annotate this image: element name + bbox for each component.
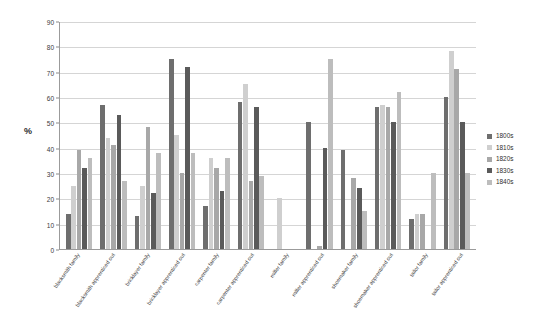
bar-group xyxy=(371,22,405,249)
bar[interactable] xyxy=(420,214,425,249)
bar[interactable] xyxy=(174,135,179,249)
bar[interactable] xyxy=(380,105,385,249)
legend-item[interactable]: 1810s xyxy=(487,145,513,151)
y-tick-label: 60 xyxy=(28,95,54,102)
x-tick-label-text: carpenter apprenticed out xyxy=(215,252,255,306)
bar[interactable] xyxy=(323,148,328,249)
y-tick-mark xyxy=(56,148,59,149)
bar[interactable] xyxy=(106,138,111,249)
bar-group xyxy=(337,22,371,249)
x-tick-label-text: miller apprenticed out xyxy=(290,252,324,298)
bar[interactable] xyxy=(386,107,391,249)
bar-group xyxy=(234,22,268,249)
x-tick-label-text: bricklayer apprenticed out xyxy=(145,252,185,306)
bar[interactable] xyxy=(254,107,259,249)
y-tick-label: 20 xyxy=(28,196,54,203)
legend-swatch-icon xyxy=(487,180,492,185)
legend-label: 1800s xyxy=(496,133,513,139)
x-tick-label-text: bricklayer family xyxy=(124,252,151,287)
legend-label: 1820s xyxy=(496,156,513,162)
x-tick-label-text: blacksmith apprenticed out xyxy=(74,252,116,308)
y-axis-title: % xyxy=(24,126,32,136)
legend-swatch-icon xyxy=(487,145,492,150)
x-tick-label-text: shoemaker apprenticed out xyxy=(352,252,394,309)
y-tick-mark xyxy=(56,98,59,99)
bar[interactable] xyxy=(117,115,122,249)
bar[interactable] xyxy=(71,186,76,249)
bar[interactable] xyxy=(397,92,402,249)
legend-item[interactable]: 1800s xyxy=(487,133,513,139)
bar-group xyxy=(165,22,199,249)
bar-group xyxy=(405,22,439,249)
y-tick-mark xyxy=(56,199,59,200)
bar[interactable] xyxy=(306,122,311,249)
y-tick-label: 40 xyxy=(28,145,54,152)
legend-item[interactable]: 1840s xyxy=(487,179,513,185)
legend-swatch-icon xyxy=(487,134,492,139)
bar[interactable] xyxy=(111,145,116,249)
y-tick-mark xyxy=(56,123,59,124)
bar-group xyxy=(302,22,336,249)
bar[interactable] xyxy=(449,51,454,249)
y-tick-mark xyxy=(56,174,59,175)
y-tick-label: 50 xyxy=(28,120,54,127)
y-tick-mark xyxy=(56,47,59,48)
x-tick-label-text: tailor family xyxy=(408,252,429,278)
legend: 1800s1810s1820s1830s1840s xyxy=(487,133,513,186)
x-tick-label-text: shoemaker family xyxy=(330,252,359,290)
legend-swatch-icon xyxy=(487,157,492,162)
y-tick-label: 0 xyxy=(28,247,54,254)
bar[interactable] xyxy=(460,122,465,249)
bar[interactable] xyxy=(391,122,396,249)
y-tick-mark xyxy=(56,224,59,225)
y-tick-label: 70 xyxy=(28,69,54,76)
legend-label: 1810s xyxy=(496,145,513,151)
y-tick-mark xyxy=(56,72,59,73)
bar[interactable] xyxy=(77,150,82,249)
y-tick-label: 90 xyxy=(28,19,54,26)
bar-group xyxy=(440,22,474,249)
y-tick-mark xyxy=(56,22,59,23)
y-tick-label: 80 xyxy=(28,44,54,51)
bar[interactable] xyxy=(249,181,254,249)
legend-item[interactable]: 1830s xyxy=(487,168,513,174)
legend-label: 1840s xyxy=(496,179,513,185)
bar[interactable] xyxy=(180,173,185,249)
bar[interactable] xyxy=(100,105,105,249)
bar[interactable] xyxy=(341,150,346,249)
x-tick-label-text: carpenter family xyxy=(193,252,220,287)
legend-item[interactable]: 1820s xyxy=(487,156,513,162)
x-tick-label-text: miller family xyxy=(269,252,290,279)
bar-group xyxy=(268,22,302,249)
bar-group xyxy=(62,22,96,249)
legend-label: 1830s xyxy=(496,168,513,174)
bar-group xyxy=(96,22,130,249)
bar[interactable] xyxy=(185,67,190,249)
bar-group xyxy=(199,22,233,249)
bar[interactable] xyxy=(328,59,333,249)
y-tick-label: 30 xyxy=(28,171,54,178)
bar[interactable] xyxy=(454,69,459,249)
bar[interactable] xyxy=(444,97,449,249)
x-axis-labels: blacksmith familyblacksmith apprenticed … xyxy=(59,252,476,331)
y-tick-mark xyxy=(56,250,59,251)
legend-swatch-icon xyxy=(487,168,492,173)
bar-chart: % blacksmith familyblacksmith apprentice… xyxy=(0,0,539,331)
bar[interactable] xyxy=(209,158,214,249)
bar[interactable] xyxy=(243,84,248,249)
bar[interactable] xyxy=(66,214,71,249)
y-tick-label: 10 xyxy=(28,221,54,228)
x-tick-label-text: tailor apprenticed out xyxy=(430,252,464,297)
x-tick-label-text: blacksmith family xyxy=(53,252,81,289)
bar[interactable] xyxy=(146,127,151,249)
